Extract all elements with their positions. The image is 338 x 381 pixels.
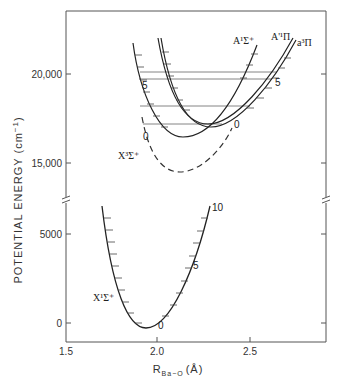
vib-label-a-0: 0	[234, 119, 240, 130]
label-a3Pi: a³Π	[297, 37, 312, 48]
x-axis-title-sub: Ba−O	[162, 370, 184, 377]
ticks-A1Sigma	[135, 54, 258, 127]
x-axis-title: RBa−O(Å)	[153, 363, 204, 377]
y-tick-label-0: 0	[56, 318, 62, 329]
x-tick-label-2.5: 2.5	[243, 346, 257, 357]
vib-label-X-5: 5	[193, 260, 199, 271]
y-axis-title-close: )	[12, 116, 24, 121]
y-axis-title: POTENTIAL ENERGY (cm−1)	[11, 116, 24, 283]
vib-label-A-0: 0	[143, 131, 149, 142]
label-X1Sigma: X¹Σ⁺	[93, 292, 114, 303]
curve-X3Sigma	[142, 117, 232, 172]
svg-text:POTENTIAL ENERGY (cm−1): POTENTIAL ENERGY (cm−1)	[11, 116, 24, 283]
vib-label-X-10: 10	[212, 202, 224, 213]
vib-label-X-0: 0	[158, 320, 164, 331]
x-tick-label-2.0: 2.0	[150, 346, 164, 357]
label-A1Sigma: A¹Σ⁺	[233, 35, 254, 46]
potential-energy-chart: 20,000 15,000 5000 0 1.5 2.0 2.5 POTENTI…	[0, 0, 338, 381]
x-axis-title-unit: (Å)	[186, 363, 204, 375]
y-tick-label-20000: 20,000	[31, 69, 62, 80]
axis-break-left	[62, 196, 70, 203]
y-tick-label-5000: 5000	[40, 229, 63, 240]
x-tick-label-1.5: 1.5	[59, 346, 73, 357]
x-axis-title-main: R	[153, 363, 162, 375]
y-axis-title-text: POTENTIAL ENERGY (cm	[12, 132, 24, 283]
y-tick-label-15000: 15,000	[31, 158, 62, 169]
x-ticks	[157, 337, 250, 342]
y-axis-title-sup: −1	[11, 121, 20, 132]
axis-break-right	[322, 196, 330, 203]
label-Ap1Pi: A'¹Π	[271, 31, 290, 42]
ticks-a3Pi	[162, 52, 291, 110]
vib-label-A-5: 5	[142, 80, 148, 91]
curve-Ap1Pi	[158, 38, 293, 124]
y-ticks	[66, 74, 326, 323]
vib-label-a-5: 5	[275, 77, 281, 88]
label-X3Sigma: X³Σ⁺	[118, 150, 139, 161]
